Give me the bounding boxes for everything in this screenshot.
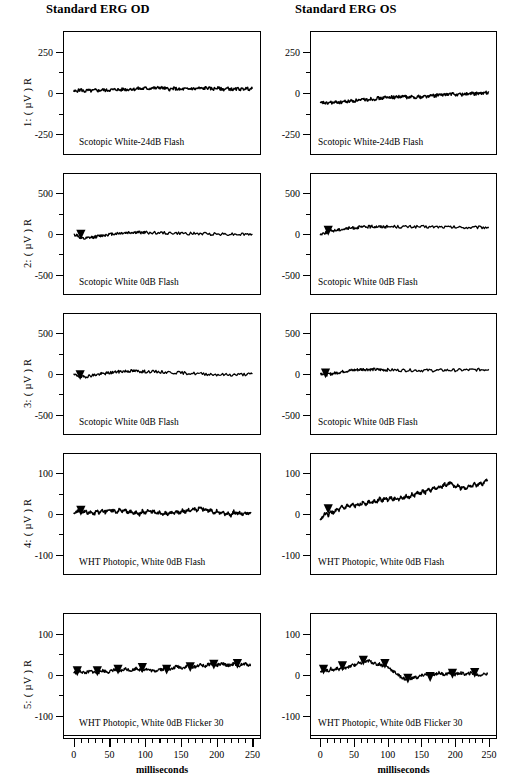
x-tick-minor bbox=[174, 738, 175, 743]
y-tick-major bbox=[56, 415, 63, 416]
x-tick-minor bbox=[124, 738, 125, 743]
y-tick-major bbox=[56, 473, 63, 474]
x-tick-label: 200 bbox=[448, 749, 463, 760]
panel-caption-5-os: WHT Photopic, White 0dB Flicker 30 bbox=[318, 718, 463, 728]
y-tick-major bbox=[303, 234, 310, 235]
y-tick-major bbox=[303, 634, 310, 635]
y-tick-major bbox=[56, 134, 63, 135]
x-tick-minor bbox=[159, 738, 160, 743]
y-tick-minor bbox=[59, 214, 64, 215]
x-tick-label: 0 bbox=[71, 749, 76, 760]
y-tick-minor bbox=[306, 695, 311, 696]
x-tick-minor bbox=[152, 738, 153, 743]
x-axis-end-cap bbox=[310, 733, 311, 739]
y-tick-label: -250 bbox=[17, 129, 53, 140]
y-tick-label: -500 bbox=[17, 409, 53, 420]
y-axis-title-2: 2: ( µV ) R bbox=[22, 219, 33, 268]
panel-caption-1-os: Scotopic White-24dB Flash bbox=[318, 137, 423, 147]
x-tick-minor bbox=[188, 738, 189, 743]
y-tick-label: 250 bbox=[17, 46, 53, 57]
x-tick-minor bbox=[482, 738, 483, 743]
x-tick-minor bbox=[462, 738, 463, 743]
y-tick-label: 500 bbox=[17, 328, 53, 339]
panel-caption-1-od: Scotopic White-24dB Flash bbox=[79, 137, 184, 147]
y-tick-minor bbox=[59, 354, 64, 355]
x-tick-major bbox=[145, 738, 146, 747]
y-tick-minor bbox=[59, 114, 64, 115]
x-tick-label: 150 bbox=[173, 749, 188, 760]
y-tick-minor bbox=[306, 114, 311, 115]
x-tick-label: 250 bbox=[245, 749, 260, 760]
x-tick-label: 200 bbox=[209, 749, 224, 760]
x-tick-minor bbox=[475, 738, 476, 743]
y-tick-label: 500 bbox=[264, 188, 300, 199]
panel-caption-2-os: Scotopic White 0dB Flash bbox=[318, 277, 418, 287]
y-tick-major bbox=[303, 134, 310, 135]
y-tick-label: -500 bbox=[264, 409, 300, 420]
y-tick-major bbox=[56, 514, 63, 515]
y-tick-label: 0 bbox=[264, 369, 300, 380]
y-tick-label: -100 bbox=[17, 549, 53, 560]
y-tick-label: -250 bbox=[264, 129, 300, 140]
x-axis-title-os: milliseconds bbox=[377, 764, 429, 775]
y-axis-title-4: 4: ( µV ) R bbox=[22, 499, 33, 548]
column-title-od: Standard ERG OD bbox=[46, 2, 150, 17]
y-tick-minor bbox=[59, 695, 64, 696]
y-tick-major bbox=[56, 555, 63, 556]
x-tick-major bbox=[181, 738, 182, 747]
y-tick-minor bbox=[306, 72, 311, 73]
x-tick-minor bbox=[334, 738, 335, 743]
y-tick-major bbox=[56, 93, 63, 94]
x-tick-minor bbox=[347, 738, 348, 743]
x-tick-major bbox=[489, 738, 490, 747]
x-tick-label: 50 bbox=[104, 749, 114, 760]
y-tick-major bbox=[56, 333, 63, 334]
x-tick-major bbox=[455, 738, 456, 747]
x-axis-end-cap bbox=[63, 733, 64, 739]
x-tick-minor bbox=[202, 738, 203, 743]
x-axis-end-cap bbox=[260, 733, 261, 739]
x-tick-minor bbox=[394, 738, 395, 743]
y-tick-major bbox=[56, 716, 63, 717]
y-tick-label: 500 bbox=[17, 188, 53, 199]
y-tick-minor bbox=[59, 72, 64, 73]
x-tick-label: 100 bbox=[380, 749, 395, 760]
panel-caption-4-od: WHT Photopic, White 0dB Flash bbox=[79, 557, 205, 567]
y-tick-major bbox=[56, 52, 63, 53]
y-axis-title-1: 1: ( µV ) R bbox=[22, 78, 33, 127]
y-tick-major bbox=[303, 473, 310, 474]
x-tick-minor bbox=[442, 738, 443, 743]
panel-caption-4-os: WHT Photopic, White 0dB Flash bbox=[318, 557, 444, 567]
y-tick-label: 500 bbox=[264, 328, 300, 339]
x-tick-major bbox=[252, 738, 253, 747]
x-tick-minor bbox=[374, 738, 375, 743]
x-axis-title-od: milliseconds bbox=[136, 764, 188, 775]
y-tick-major bbox=[56, 374, 63, 375]
y-tick-minor bbox=[59, 254, 64, 255]
y-tick-minor bbox=[306, 534, 311, 535]
y-tick-major bbox=[303, 333, 310, 334]
y-tick-minor bbox=[306, 654, 311, 655]
y-tick-major bbox=[303, 555, 310, 556]
y-tick-label: -500 bbox=[17, 269, 53, 280]
y-tick-minor bbox=[59, 394, 64, 395]
y-axis-title-3: 3: ( µV ) R bbox=[22, 359, 33, 408]
y-tick-minor bbox=[306, 494, 311, 495]
y-tick-label: -100 bbox=[264, 549, 300, 560]
x-tick-minor bbox=[245, 738, 246, 743]
y-tick-label: 100 bbox=[17, 628, 53, 639]
y-tick-minor bbox=[59, 494, 64, 495]
x-tick-minor bbox=[327, 738, 328, 743]
y-axis-title-5: 5: ( µV ) R bbox=[22, 659, 33, 708]
y-tick-minor bbox=[306, 254, 311, 255]
x-tick-minor bbox=[408, 738, 409, 743]
y-tick-major bbox=[56, 193, 63, 194]
y-tick-label: 100 bbox=[264, 468, 300, 479]
panel-caption-5-od: WHT Photopic, White 0dB Flicker 30 bbox=[79, 718, 224, 728]
x-tick-label: 150 bbox=[414, 749, 429, 760]
x-tick-minor bbox=[102, 738, 103, 743]
y-tick-label: 100 bbox=[264, 628, 300, 639]
y-tick-major bbox=[303, 93, 310, 94]
y-tick-major bbox=[303, 275, 310, 276]
y-tick-minor bbox=[59, 534, 64, 535]
